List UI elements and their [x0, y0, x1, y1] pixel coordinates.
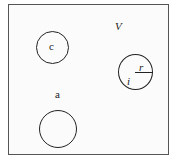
circle-bottom [39, 110, 77, 148]
region-label-v: V [115, 21, 122, 32]
radius-line [135, 72, 153, 73]
point-a-label: a [55, 89, 60, 100]
circle-i-label: i [127, 76, 130, 87]
radius-label: r [139, 62, 143, 73]
circle-c-label: c [49, 41, 54, 52]
